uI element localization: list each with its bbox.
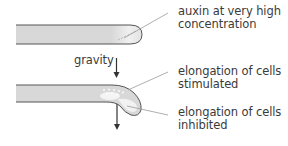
root-horizontal [16,25,142,44]
gravitropism-diagram: auxin at very high concentration gravity… [0,0,288,146]
label-gravity: gravity [74,54,114,67]
label-stimulated: elongation of cells stimulated [178,65,281,91]
gravity-arrow [114,58,120,78]
label-stimulated-line2: stimulated [178,78,281,91]
label-inhibited-line2: inhibited [178,119,281,132]
stimulated-zone [100,92,120,100]
label-inhibited: elongation of cells inhibited [178,106,281,132]
label-auxin: auxin at very high concentration [178,5,281,31]
label-auxin-line2: concentration [178,18,281,31]
growth-direction-arrow [114,104,120,130]
leader-line-stimulated [128,72,168,90]
root-bent [16,85,141,115]
